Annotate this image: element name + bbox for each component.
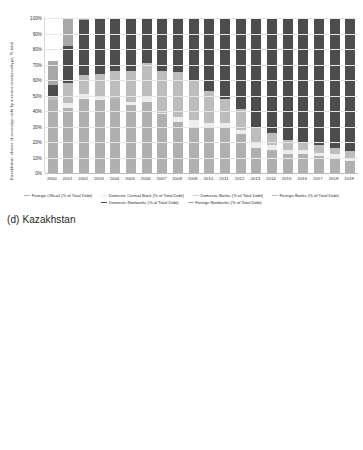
bar-segment [110,18,120,71]
bar-segment [189,80,199,120]
y-tick-label: 50% [33,93,42,98]
legend-label: Domestic Banks (% of Total Debt) [200,192,263,199]
bar-segment [189,127,199,174]
x-tick-label: 2016 [297,176,307,181]
legend-swatch [24,195,30,197]
bar-segment [236,134,246,173]
legend-label: Domestic Nonbanks (% of Total Debt) [109,199,179,206]
bar-segment [126,105,136,173]
bar-segment [48,85,58,96]
bar-segment [330,18,340,148]
bar-segment [157,71,167,113]
bar-segment [110,71,120,99]
bar-segment [63,108,73,173]
bar-segment [314,145,324,153]
x-tick-label: 2009 [188,176,198,181]
bar-segment [251,148,261,173]
bar-segment [79,75,89,94]
y-tick-label: 10% [33,155,42,160]
x-tick-label: 2014 [266,176,276,181]
bar-segment [330,158,340,174]
legend-swatch [101,202,107,204]
x-tick-label: 2015 [282,176,292,181]
gridline [45,111,358,112]
bar-segment [126,18,136,71]
y-tick-label: 100% [30,16,42,21]
legend-item: Foreign Nonbanks (% of Total Debt) [188,199,262,206]
legend-kazakhstan: Foreign Official (% of Total Debt)Domest… [0,192,363,206]
bar-segment [314,156,324,173]
legend-item: Domestic Nonbanks (% of Total Debt) [101,199,178,206]
x-tick-label: 2012 [235,176,245,181]
legend-item: Domestic Banks (% of Total Debt) [193,192,263,199]
gridline [45,173,358,174]
bar-segment [267,150,277,173]
bar-segment [220,127,230,174]
x-tick-label: 2013 [250,176,260,181]
legend-swatch [272,195,278,197]
x-tick-label: 2011 [219,176,228,181]
legend-label: Domestic Central Bank (% of Total Debt) [109,192,184,199]
x-tick-label: 2002 [78,176,88,181]
y-tick-label: 70% [33,62,42,67]
x-tick-label: 2017 [313,176,323,181]
bar-segment [267,133,277,145]
y-tick-label: 0% [35,171,42,176]
bar-segment [345,161,355,173]
bar-segment [220,18,230,99]
y-tick-label: 40% [33,109,42,114]
x-tick-label: 2019 [344,176,354,181]
y-tick-label: 30% [33,124,42,129]
bar-segment [298,142,308,150]
bar-segment [157,18,167,71]
bar-segment [79,99,89,173]
bar-segment [267,18,277,133]
legend-label: Foreign Banks (% of Total Debt) [280,192,339,199]
bar-segment [63,18,73,46]
bar-segment [63,83,73,103]
panel-turkmenistan: Turkmenistan: shares of sovereign debt b… [0,232,363,450]
bar-segment [142,18,152,63]
bar-segment [204,127,214,174]
x-tick-label: 2004 [110,176,120,181]
gridline [45,96,358,97]
bar-segment [345,18,355,151]
x-tick-label: 2007 [156,176,166,181]
legend-swatch [188,202,194,204]
legend-item: Foreign Official (% of Total Debt) [24,192,92,199]
bar-segment [142,102,152,173]
x-tick-label: 2005 [125,176,135,181]
x-tick-label: 2018 [329,176,339,181]
bar-segment [126,71,136,102]
legend-label: Foreign Official (% of Total Debt) [32,192,92,199]
legend-item: Foreign Banks (% of Total Debt) [272,192,339,199]
x-tick-label: 2001 [63,176,73,181]
gridline [45,18,358,19]
bar-segment [251,127,261,143]
bar-segment [95,74,105,96]
y-tick-label: 20% [33,140,42,145]
gridline [45,142,358,143]
bar-segment [110,99,120,173]
gridline [45,49,358,50]
panel-kazakhstan: Kazakhstan: shares of sovereign debt by … [0,0,363,232]
gridline [45,158,358,159]
gridline [45,127,358,128]
x-tick-label: 2000 [47,176,57,181]
y-tick-label: 80% [33,47,42,52]
bar-stack [48,61,58,173]
gridline [45,80,358,81]
legend-swatch [101,195,107,197]
x-tick-label: 2008 [172,176,182,181]
bar-segment [173,122,183,173]
x-tick-label: 2006 [141,176,151,181]
x-tick-label: 2010 [203,176,213,181]
panel-caption-kazakhstan: (d) Kazakhstan [7,214,76,225]
bar-segment [79,20,89,76]
gridline [45,34,358,35]
y-axis-ticks-kazakhstan: 0%10%20%30%40%50%60%70%80%90%100% [0,18,42,173]
legend-item: Domestic Central Bank (% of Total Debt) [101,192,184,199]
y-tick-label: 90% [33,31,42,36]
legend-label: Foreign Nonbanks (% of Total Debt) [195,199,262,206]
bar-segment [157,114,167,173]
